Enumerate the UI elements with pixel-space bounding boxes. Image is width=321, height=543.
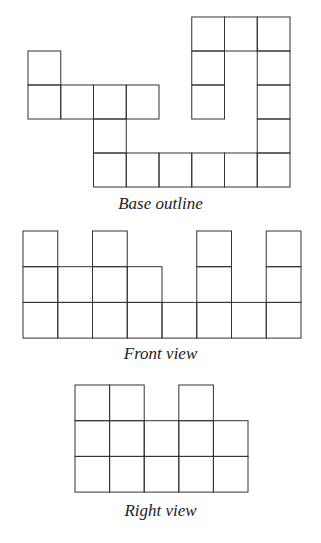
grid-cell bbox=[93, 302, 128, 338]
grid-cell bbox=[225, 153, 258, 187]
grid-cell bbox=[257, 51, 290, 85]
front-view-grid bbox=[23, 231, 301, 338]
grid-cell bbox=[93, 231, 128, 267]
base-outline-caption: Base outline bbox=[0, 194, 321, 214]
grid-cell bbox=[213, 421, 248, 457]
grid-cell bbox=[61, 85, 94, 119]
grid-cell bbox=[197, 302, 232, 338]
grid-cell bbox=[232, 302, 267, 338]
grid-cell bbox=[266, 267, 301, 303]
grid-cell bbox=[144, 456, 179, 492]
grid-cell bbox=[94, 153, 127, 187]
grid-cell bbox=[192, 85, 225, 119]
grid-cell bbox=[266, 302, 301, 338]
grid-cell bbox=[225, 17, 258, 51]
grid-cell bbox=[266, 231, 301, 267]
grid-cell bbox=[257, 119, 290, 153]
grid-cell bbox=[192, 153, 225, 187]
grid-cell bbox=[94, 119, 127, 153]
base-outline-grid bbox=[28, 17, 290, 187]
grid-cell bbox=[58, 302, 93, 338]
grid-cell bbox=[197, 267, 232, 303]
grid-cell bbox=[144, 421, 179, 457]
grid-cell bbox=[179, 421, 214, 457]
right-view-grid bbox=[75, 385, 248, 492]
grid-cell bbox=[28, 51, 61, 85]
right-view-caption: Right view bbox=[0, 501, 321, 521]
grid-cell bbox=[58, 267, 93, 303]
grid-cell bbox=[75, 385, 110, 421]
grid-cell bbox=[179, 385, 214, 421]
grid-cell bbox=[28, 85, 61, 119]
grid-cell bbox=[23, 302, 58, 338]
grid-cell bbox=[213, 456, 248, 492]
grid-cell bbox=[93, 267, 128, 303]
grid-cell bbox=[127, 267, 162, 303]
grid-cell bbox=[192, 17, 225, 51]
grid-cell bbox=[257, 153, 290, 187]
grid-cell bbox=[257, 85, 290, 119]
grid-cell bbox=[75, 456, 110, 492]
grid-cell bbox=[179, 456, 214, 492]
grid-cell bbox=[257, 17, 290, 51]
grid-cell bbox=[126, 153, 159, 187]
views-diagram bbox=[0, 0, 321, 543]
grid-cell bbox=[192, 51, 225, 85]
front-view-caption: Front view bbox=[0, 344, 321, 364]
grid-cell bbox=[159, 153, 192, 187]
grid-cell bbox=[94, 85, 127, 119]
grid-cell bbox=[110, 421, 145, 457]
grid-cell bbox=[127, 302, 162, 338]
grid-cell bbox=[23, 267, 58, 303]
grid-cell bbox=[110, 385, 145, 421]
grid-cell bbox=[23, 231, 58, 267]
grid-cell bbox=[197, 231, 232, 267]
grid-cell bbox=[75, 421, 110, 457]
grid-cell bbox=[162, 302, 197, 338]
grid-cell bbox=[126, 85, 159, 119]
grid-cell bbox=[110, 456, 145, 492]
